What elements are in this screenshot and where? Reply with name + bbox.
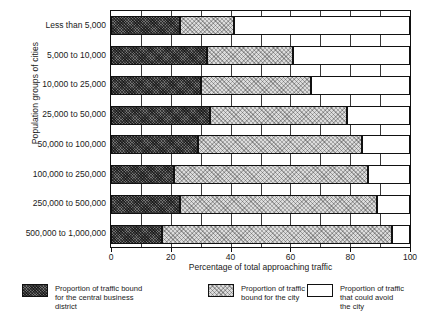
bar-segment-3	[293, 46, 410, 65]
y-tick-label: 10,000 to 25,000	[18, 79, 106, 89]
legend-item: Proportion of traffic that could avoid t…	[307, 284, 404, 312]
bar-segment-1	[111, 225, 162, 244]
y-tick-label: 100,000 to 250,000	[18, 169, 106, 179]
bar-segment-3	[377, 195, 410, 214]
bar-row	[111, 46, 410, 65]
bar-segment-2	[162, 225, 392, 244]
bar-segment-3	[234, 16, 410, 35]
bar-segment-2	[180, 195, 377, 214]
legend-item: Proportion of traffic bound for the city	[208, 284, 305, 302]
y-tick-label: 5,000 to 10,000	[18, 50, 106, 60]
y-tick-label: 50,000 to 100,000	[18, 139, 106, 149]
x-tick-label: 0	[109, 252, 114, 262]
bar-segment-1	[111, 195, 180, 214]
y-tick-label: Less than 5,000	[18, 20, 106, 30]
x-axis-title: Percentage of total approaching traffic	[110, 262, 411, 272]
y-tick-label: 250,000 to 500,000	[18, 198, 106, 208]
stacked-bar-chart: Population groups of cities Less than 5,…	[0, 0, 429, 321]
bar-row	[111, 135, 410, 154]
bar-row	[111, 16, 410, 35]
bar-row	[111, 76, 410, 95]
bar-segment-3	[347, 106, 410, 125]
bar-row	[111, 165, 410, 184]
legend-item: Proportion of traffic bound for the cent…	[22, 284, 142, 312]
y-tick-label: 25,000 to 50,000	[18, 109, 106, 119]
bar-segment-2	[198, 135, 362, 154]
bar-segment-1	[111, 76, 201, 95]
bar-segment-1	[111, 165, 174, 184]
legend-label: Proportion of traffic bound for the cent…	[55, 284, 142, 312]
bar-segment-3	[311, 76, 410, 95]
legend-label: Proportion of traffic that could avoid t…	[340, 284, 404, 312]
light-stipple-swatch	[208, 284, 234, 297]
bar-segment-1	[111, 135, 198, 154]
bar-row	[111, 106, 410, 125]
white-swatch	[307, 284, 333, 297]
bar-segment-3	[362, 135, 410, 154]
bar-segment-3	[392, 225, 410, 244]
x-tick-label: 80	[345, 252, 354, 262]
chart-legend: Proportion of traffic bound for the cent…	[22, 284, 422, 320]
x-tick-label: 40	[226, 252, 235, 262]
plot-area	[110, 10, 411, 248]
bar-segment-2	[210, 106, 348, 125]
x-tick-label: 20	[166, 252, 175, 262]
bar-segment-1	[111, 16, 180, 35]
legend-label: Proportion of traffic bound for the city	[241, 284, 305, 302]
bar-segment-2	[180, 16, 234, 35]
dark-hatch-swatch	[22, 284, 48, 297]
y-tick-label: 500,000 to 1,000,000	[18, 228, 106, 238]
bar-row	[111, 195, 410, 214]
bar-segment-1	[111, 46, 207, 65]
bar-segment-3	[368, 165, 410, 184]
bar-segment-2	[207, 46, 294, 65]
bar-segment-2	[174, 165, 368, 184]
bar-row	[111, 225, 410, 244]
bar-segment-2	[201, 76, 312, 95]
y-axis-tick-labels: Less than 5,0005,000 to 10,00010,000 to …	[18, 10, 106, 248]
x-tick-label: 60	[286, 252, 295, 262]
bar-segment-1	[111, 106, 210, 125]
x-tick-label: 100	[403, 252, 417, 262]
